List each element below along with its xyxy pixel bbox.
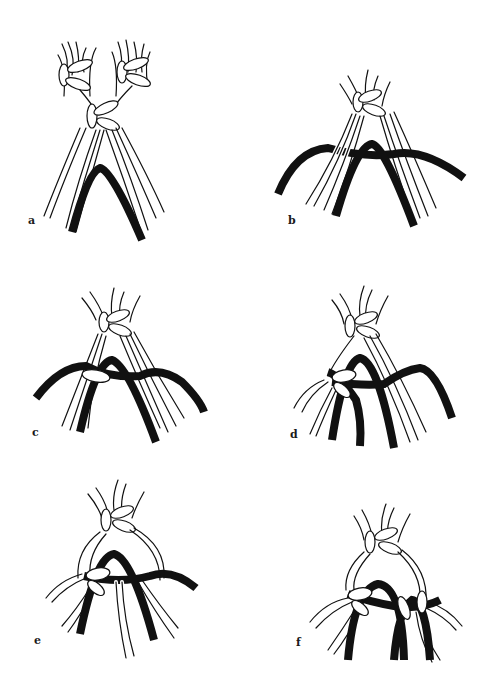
center-knot xyxy=(80,86,132,133)
knot-illustration-f xyxy=(244,490,488,699)
hanging-cords xyxy=(44,128,164,232)
knot-illustration-c xyxy=(0,270,244,470)
panel-label-d: d xyxy=(290,428,298,441)
panel-c: c xyxy=(0,270,244,470)
hanging-cords xyxy=(310,586,462,662)
panel-label-e: e xyxy=(34,634,41,647)
panel-label-a: a xyxy=(28,214,35,227)
knot-illustration-b xyxy=(244,40,488,250)
top-knot xyxy=(340,70,390,119)
holding-cord-horizontal xyxy=(36,366,204,412)
knot-illustration-a xyxy=(0,0,244,250)
top-knot xyxy=(332,286,388,341)
panel-label-c: c xyxy=(32,426,39,439)
upper-left-knot xyxy=(58,42,96,96)
top-knot xyxy=(354,504,410,557)
knot-illustration-e xyxy=(0,470,244,699)
panel-label-b: b xyxy=(288,214,296,227)
holding-cord-horizontal xyxy=(278,148,464,194)
top-knot xyxy=(82,288,140,339)
knot-illustration-d xyxy=(244,270,488,470)
hanging-cords xyxy=(46,528,178,658)
panel-b: b xyxy=(244,40,488,250)
panel-a: a xyxy=(0,0,244,250)
panel-e: e xyxy=(0,470,244,699)
panel-label-f: f xyxy=(296,636,301,649)
panel-f: f xyxy=(244,490,488,699)
top-knot xyxy=(88,480,144,535)
panel-d: d xyxy=(244,270,488,470)
hanging-cords xyxy=(306,112,436,218)
upper-right-knot xyxy=(112,40,152,96)
